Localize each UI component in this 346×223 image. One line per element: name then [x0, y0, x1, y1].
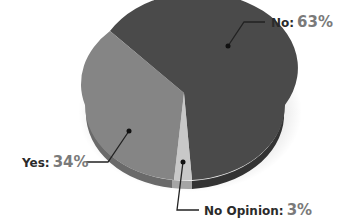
label-no: No:63% [271, 12, 333, 31]
label-no-value: 63% [297, 13, 333, 31]
label-no-name: No: [271, 16, 294, 30]
label-yes: Yes:34% [22, 152, 89, 171]
pie-chart [0, 0, 346, 223]
label-yes-name: Yes: [22, 156, 50, 170]
label-yes-value: 34% [53, 153, 89, 171]
label-no-opinion: No Opinion:3% [204, 200, 312, 219]
label-no-opinion-value: 3% [287, 201, 312, 219]
label-no-opinion-name: No Opinion: [204, 204, 284, 218]
